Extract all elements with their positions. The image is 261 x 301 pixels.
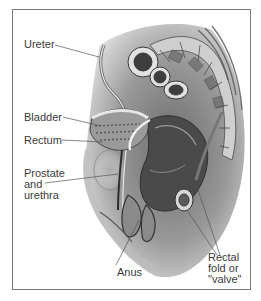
label-anus: Anus: [117, 267, 142, 278]
label-bladder: Bladder: [24, 112, 62, 123]
label-prostate-urethra: Prostate and urethra: [24, 168, 65, 201]
label-ureter: Ureter: [24, 39, 55, 50]
label-rectal-fold: Rectal fold or "valve": [208, 252, 242, 285]
label-rectum: Rectum: [24, 135, 62, 146]
